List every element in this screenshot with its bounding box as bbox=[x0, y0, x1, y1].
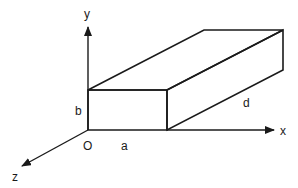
diagram-svg: y x z O a b d bbox=[0, 0, 298, 188]
height-label-b: b bbox=[75, 104, 82, 118]
box-diagram: y x z O a b d bbox=[0, 0, 298, 188]
origin-label: O bbox=[83, 139, 92, 153]
box-front-face bbox=[88, 90, 167, 130]
y-axis-label: y bbox=[84, 7, 90, 21]
x-axis-label: x bbox=[280, 124, 286, 138]
depth-label-d: d bbox=[243, 96, 250, 110]
box-right-face bbox=[167, 30, 283, 130]
z-axis-label: z bbox=[12, 170, 18, 184]
width-label-a: a bbox=[121, 139, 128, 153]
z-axis bbox=[22, 130, 88, 166]
